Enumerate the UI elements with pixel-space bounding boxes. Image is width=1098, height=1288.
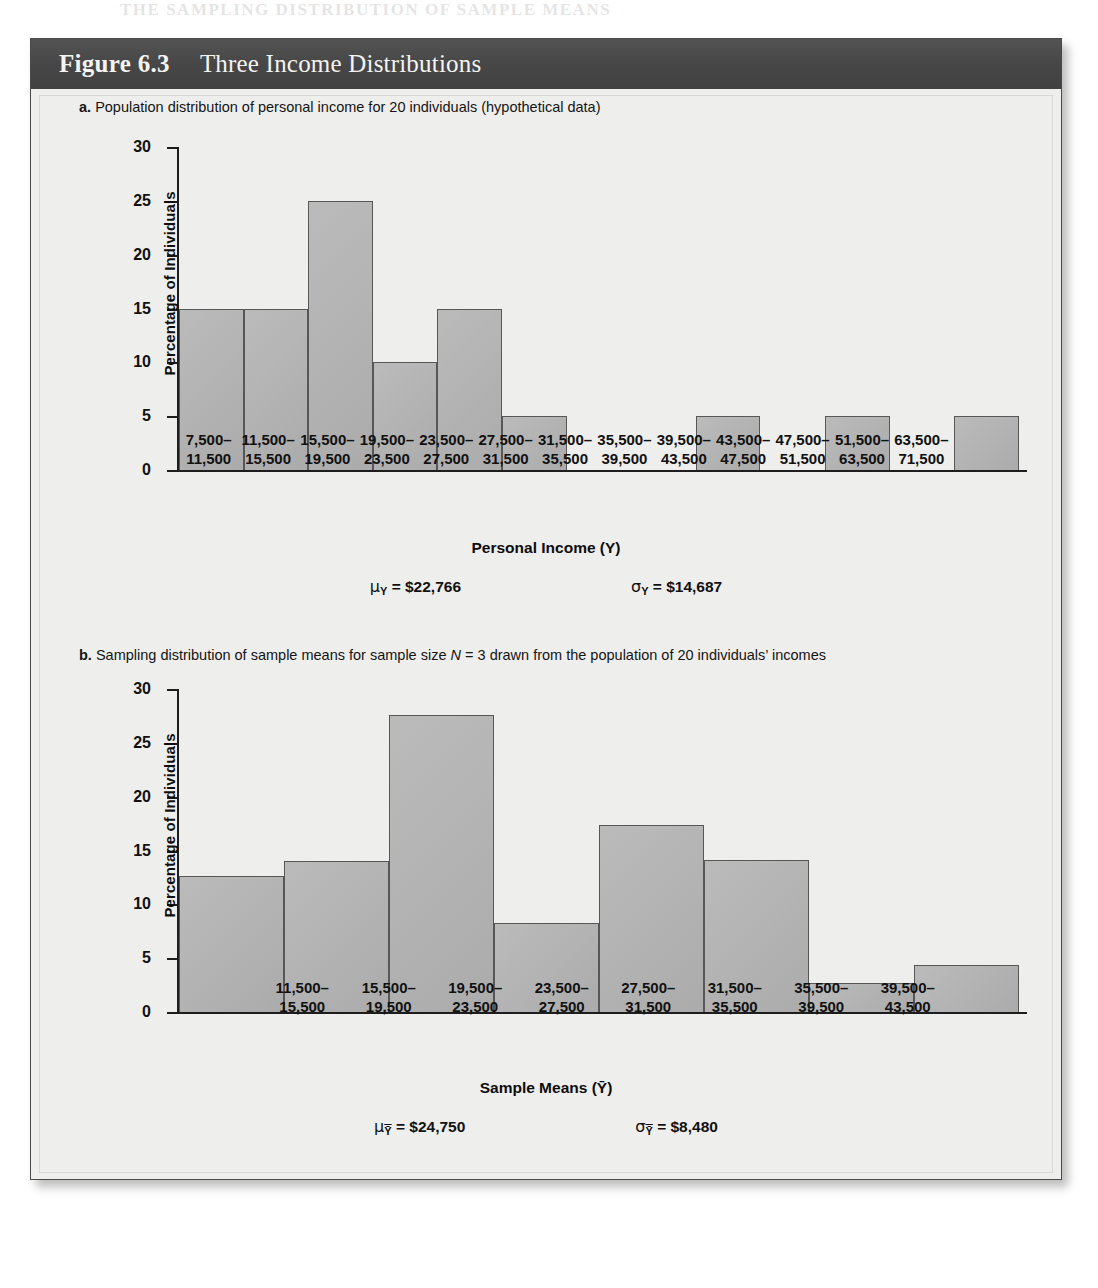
histogram-bar [954, 416, 1019, 470]
chart-a-mean-stat: μY = $22,766 [370, 577, 461, 597]
figure-body: a. Population distribution of personal i… [31, 89, 1061, 1179]
chart-b-stats: μȲ = $24,750 σȲ = $8,480 [31, 1117, 1061, 1137]
x-tick-label: 11,500–15,500 [259, 978, 346, 1016]
y-tick-label: 20 [133, 245, 151, 263]
bar-slot [954, 147, 1019, 470]
page-header-bleed-text: THE SAMPLING DISTRIBUTION OF SAMPLE MEAN… [120, 0, 1000, 16]
x-tick-label: 23,500–27,500 [519, 978, 606, 1016]
chart-b-caption-n: N [451, 647, 461, 663]
y-tick-label: 5 [142, 407, 151, 425]
bar-slot [179, 147, 244, 470]
chart-b-mean-stat: μȲ = $24,750 [374, 1117, 465, 1137]
y-tick-mark: 30 [167, 147, 177, 149]
bar-slot [809, 689, 914, 1012]
x-tick-label: 19,500–23,500 [357, 430, 416, 468]
y-tick-mark: 30 [167, 689, 177, 691]
x-tick-label: 15,500–19,500 [346, 978, 433, 1016]
y-tick-label: 20 [133, 787, 151, 805]
figure-number: Figure 6.3 [59, 50, 170, 78]
x-tick-label: 23,500–27,500 [417, 430, 476, 468]
y-tick-label: 10 [133, 353, 151, 371]
y-tick-mark: 0 [167, 470, 177, 472]
y-tick-label: 30 [133, 680, 151, 698]
chart-a-bars [179, 147, 1019, 470]
chart-a-caption-text: Population distribution of personal inco… [95, 99, 600, 115]
y-tick-label: 5 [142, 949, 151, 967]
figure-header: Figure 6.3 Three Income Distributions [31, 39, 1061, 89]
x-tick-label: 27,500–31,500 [476, 430, 535, 468]
chart-panel-a: a. Population distribution of personal i… [31, 99, 1061, 639]
x-tick-label: 27,500–31,500 [605, 978, 692, 1016]
chart-a-x-tick-labels: 7,500–11,50011,500–15,50015,500–19,50019… [179, 430, 951, 468]
bar-slot [567, 147, 632, 470]
x-tick-label: 47,500–51,500 [773, 430, 832, 468]
chart-b-bars [179, 689, 1019, 1012]
bar-slot [914, 689, 1019, 1012]
chart-b-sd-stat: σȲ = $8,480 [635, 1117, 718, 1137]
y-tick-label: 25 [133, 733, 151, 751]
chart-a-x-axis [177, 470, 1027, 472]
bar-slot [437, 147, 502, 470]
chart-a-caption: a. Population distribution of personal i… [79, 99, 601, 115]
chart-b-plot-area: 051015202530 Percentage of Individuals [177, 689, 1019, 1014]
histogram-bar [389, 715, 494, 1012]
bar-slot [502, 147, 567, 470]
chart-a-plot-area: 051015202530 Percentage of Individuals [177, 147, 1019, 472]
bar-slot [825, 147, 890, 470]
bar-slot [389, 689, 494, 1012]
y-tick-label: 15 [133, 841, 151, 859]
figure-title: Three Income Distributions [200, 50, 482, 78]
bar-slot [760, 147, 825, 470]
figure-box: Figure 6.3 Three Income Distributions a.… [30, 38, 1062, 1180]
chart-a-sd-stat: σY = $14,687 [631, 577, 722, 597]
chart-a-stats: μY = $22,766 σY = $14,687 [31, 577, 1061, 597]
y-tick-label: 30 [133, 138, 151, 156]
y-tick-label: 10 [133, 895, 151, 913]
bar-slot [179, 689, 284, 1012]
y-tick-label: 25 [133, 191, 151, 209]
chart-b-y-axis-title: Percentage of Individuals [161, 706, 178, 946]
x-tick-label: 43,500–47,500 [714, 430, 773, 468]
chart-b-x-tick-labels: 11,500–15,50015,500–19,50019,500–23,5002… [259, 978, 951, 1016]
x-tick-label: 35,500–39,500 [778, 978, 865, 1016]
x-tick-label: 39,500–43,500 [654, 430, 713, 468]
chart-b-letter: b. [79, 647, 92, 663]
x-tick-label: 7,500–11,500 [179, 430, 238, 468]
bar-slot [599, 689, 704, 1012]
x-tick-label: 31,500–35,500 [692, 978, 779, 1016]
x-tick-label: 19,500–23,500 [432, 978, 519, 1016]
y-tick-mark: 5 [167, 958, 177, 960]
bar-slot [704, 689, 809, 1012]
y-tick-label: 0 [142, 461, 151, 479]
x-tick-label: 11,500–15,500 [238, 430, 297, 468]
y-tick-label: 0 [142, 1003, 151, 1021]
x-tick-label: 63,500–71,500 [892, 430, 951, 468]
y-tick-label: 15 [133, 299, 151, 317]
bar-slot [284, 689, 389, 1012]
x-tick-label: 31,500–35,500 [535, 430, 594, 468]
bar-slot [494, 689, 599, 1012]
x-tick-label: 35,500–39,500 [595, 430, 654, 468]
chart-a-letter: a. [79, 99, 91, 115]
bar-slot [244, 147, 309, 470]
bar-slot [890, 147, 955, 470]
chart-a-y-axis-title: Percentage of Individuals [161, 164, 178, 404]
bar-slot [308, 147, 373, 470]
chart-b-caption: b. Sampling distribution of sample means… [79, 647, 826, 663]
chart-a-x-axis-title: Personal Income (Y) [31, 539, 1061, 557]
x-tick-label: 39,500–43,500 [865, 978, 952, 1016]
chart-b-x-axis-title: Sample Means (Ȳ) [31, 1079, 1061, 1097]
chart-b-caption-rest: = 3 drawn from the population of 20 indi… [461, 647, 826, 663]
x-tick-label: 15,500–19,500 [298, 430, 357, 468]
bar-slot [631, 147, 696, 470]
x-tick-label: 51,500–63,500 [832, 430, 891, 468]
chart-panel-b: b. Sampling distribution of sample means… [31, 647, 1061, 1177]
chart-b-caption-prefix: Sampling distribution of sample means fo… [96, 647, 451, 663]
y-tick-mark: 0 [167, 1012, 177, 1014]
y-tick-mark: 5 [167, 416, 177, 418]
bar-slot [373, 147, 438, 470]
bar-slot [696, 147, 761, 470]
